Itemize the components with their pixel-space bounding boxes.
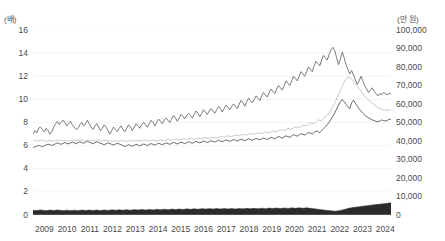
left-axis-tick-0: 0 <box>6 210 28 220</box>
left-axis-tick-14: 14 <box>6 48 28 58</box>
right-axis-tick-80000: 80,000 <box>396 62 422 72</box>
x-axis-tick-2020: 2020 <box>285 224 304 234</box>
x-axis-tick-2012: 2012 <box>103 224 122 234</box>
right-axis-tick-60000: 60,000 <box>396 99 422 109</box>
right-axis-tick-90000: 90,000 <box>396 43 422 53</box>
right-axis-unit-label: (만 원) <box>397 13 419 24</box>
right-axis-tick-70000: 70,000 <box>396 80 422 90</box>
left-axis-tick-4: 4 <box>6 163 28 173</box>
left-axis-tick-12: 12 <box>6 71 28 81</box>
right-axis-tick-50000: 50,000 <box>396 117 422 127</box>
x-axis-tick-2023: 2023 <box>353 224 372 234</box>
x-axis-tick-2009: 2009 <box>35 224 54 234</box>
left-axis-tick-16: 16 <box>6 25 28 35</box>
x-axis-tick-2010: 2010 <box>58 224 77 234</box>
right-axis-tick-100000: 100,000 <box>396 25 427 35</box>
x-axis-tick-2024: 2024 <box>376 224 395 234</box>
left-axis-tick-10: 10 <box>6 94 28 104</box>
x-axis-tick-2019: 2019 <box>262 224 281 234</box>
x-axis-tick-2013: 2013 <box>126 224 145 234</box>
right-axis-tick-10000: 10,000 <box>396 191 422 201</box>
x-axis-tick-2015: 2015 <box>171 224 190 234</box>
x-axis-tick-2017: 2017 <box>217 224 236 234</box>
series-upper-ratio-line <box>33 47 391 134</box>
chart-container: (배) (만 원) 0246810121416 010,00020,00030,… <box>0 0 445 241</box>
x-axis-tick-2011: 2011 <box>81 224 99 234</box>
plot-area <box>33 30 391 215</box>
right-axis-tick-20000: 20,000 <box>396 173 422 183</box>
left-axis-tick-6: 6 <box>6 140 28 150</box>
right-axis-tick-40000: 40,000 <box>396 136 422 146</box>
series-baseline-dark-area <box>33 203 391 215</box>
right-axis-tick-30000: 30,000 <box>396 154 422 164</box>
x-axis-tick-2014: 2014 <box>149 224 168 234</box>
x-axis-tick-2022: 2022 <box>330 224 349 234</box>
x-axis-tick-2021: 2021 <box>308 224 327 234</box>
gridlines <box>33 30 391 192</box>
chart-svg <box>33 30 391 215</box>
x-axis-tick-2016: 2016 <box>194 224 213 234</box>
left-axis-unit-label: (배) <box>4 13 16 24</box>
x-axis-tick-2018: 2018 <box>239 224 258 234</box>
left-axis-tick-2: 2 <box>6 186 28 196</box>
right-axis-tick-0: 0 <box>396 210 401 220</box>
left-axis-tick-8: 8 <box>6 117 28 127</box>
